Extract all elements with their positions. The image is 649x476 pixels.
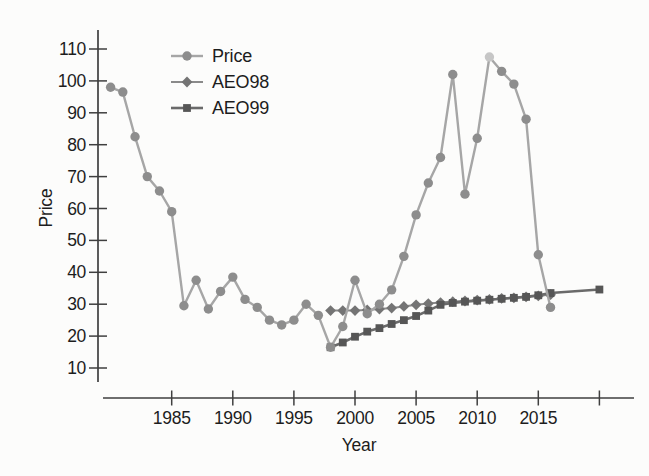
aeo98-series-legend-marker-icon: [170, 74, 206, 90]
legend-item-price: Price: [170, 43, 269, 69]
svg-text:60: 60: [67, 199, 86, 219]
legend-label-price: Price: [212, 46, 252, 67]
price-series-legend-marker-icon: [170, 48, 206, 64]
svg-text:1985: 1985: [153, 408, 191, 428]
svg-text:2000: 2000: [336, 408, 374, 428]
svg-text:1995: 1995: [275, 408, 313, 428]
x-axis-tick-labels: 1985199019952000200520102015: [153, 408, 557, 428]
svg-text:30: 30: [67, 294, 86, 314]
legend-item-aeo98: AEO98: [170, 69, 269, 95]
svg-text:110: 110: [59, 39, 87, 59]
svg-text:90: 90: [67, 103, 86, 123]
y-axis-title: Price: [36, 153, 57, 263]
legend-item-aeo99: AEO99: [170, 95, 269, 121]
aeo99-series-markers: [327, 286, 604, 352]
svg-text:2010: 2010: [458, 408, 496, 428]
svg-text:10: 10: [67, 358, 86, 378]
figure-page: 1020304050607080901001101985199019952000…: [0, 0, 649, 476]
x-axis-title: Year: [328, 435, 390, 456]
series-aeo99: [327, 286, 604, 352]
svg-text:2015: 2015: [519, 408, 557, 428]
legend-label-aeo99: AEO99: [212, 98, 269, 119]
svg-text:70: 70: [67, 167, 86, 187]
svg-text:1990: 1990: [214, 408, 252, 428]
legend: Price AEO98 AEO99: [170, 43, 269, 121]
svg-text:50: 50: [67, 230, 86, 250]
svg-text:2005: 2005: [397, 408, 435, 428]
line-chart: 1020304050607080901001101985199019952000…: [0, 0, 649, 476]
svg-text:20: 20: [67, 326, 86, 346]
legend-label-aeo98: AEO98: [212, 72, 269, 93]
svg-text:40: 40: [67, 262, 86, 282]
svg-text:100: 100: [58, 71, 87, 91]
svg-text:80: 80: [67, 135, 86, 155]
y-axis-tick-labels: 102030405060708090100110: [58, 39, 87, 378]
aeo99-series-legend-marker-icon: [170, 100, 206, 116]
